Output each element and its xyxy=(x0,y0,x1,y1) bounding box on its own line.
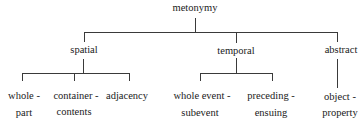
connector-abstract-drop xyxy=(337,32,338,42)
connector-spatial-drop xyxy=(84,32,85,42)
connector-preceding-drop xyxy=(272,73,273,81)
node-container-contents-line2: contents xyxy=(57,107,92,118)
node-container-contents-line1: container - xyxy=(53,91,98,102)
node-metonymy: metonymy xyxy=(173,3,218,14)
connector-spatial-bar xyxy=(22,73,130,74)
connector-abstract-stem xyxy=(337,59,338,88)
connector-adjacency-drop xyxy=(129,73,130,81)
connector-temporal-stem xyxy=(236,58,237,73)
node-preceding-ensuing-line1: preceding - xyxy=(247,91,295,102)
node-whole-part-line1: whole - xyxy=(8,91,40,102)
node-whole-event-subevent-line1: whole event - xyxy=(173,91,230,102)
node-adjacency: adjacency xyxy=(106,91,148,102)
node-spatial: spatial xyxy=(70,45,97,56)
metonymy-tree-diagram: metonymy spatial temporal abstract whole… xyxy=(0,0,363,122)
node-whole-part-line2: part xyxy=(16,108,32,119)
connector-spatial-stem xyxy=(83,59,84,73)
node-object-property-line2: property xyxy=(322,108,358,119)
connector-root-stem xyxy=(195,18,196,32)
connector-temporal-drop xyxy=(236,32,237,43)
connector-container-contents-drop xyxy=(74,73,75,81)
node-abstract: abstract xyxy=(325,45,358,56)
connector-whole-event-drop xyxy=(200,73,201,81)
connector-whole-part-drop xyxy=(22,73,23,81)
connector-root-bar xyxy=(84,32,338,33)
connector-temporal-bar xyxy=(200,73,273,74)
node-preceding-ensuing-line2: ensuing xyxy=(255,108,288,119)
node-whole-event-subevent-line2: subevent xyxy=(181,108,218,119)
node-temporal: temporal xyxy=(217,46,254,57)
node-object-property-line1: object - xyxy=(324,92,356,103)
